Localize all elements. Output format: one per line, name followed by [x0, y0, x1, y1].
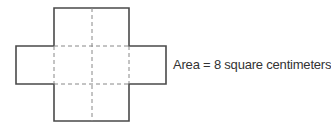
area-label: Area = 8 square centimeters [173, 57, 331, 72]
dashed-grid-lines [54, 8, 129, 121]
solid-outline [16, 8, 166, 121]
